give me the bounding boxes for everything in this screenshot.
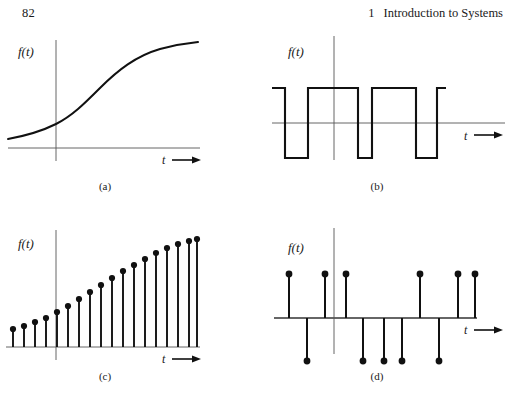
- x-axis-label: t: [162, 153, 166, 167]
- figure-panel-c: f(t) t (c): [0, 212, 230, 367]
- stem-series: [10, 236, 200, 347]
- panel-d-plot: f(t) t: [262, 212, 512, 367]
- y-axis-label: f(t): [18, 236, 34, 251]
- y-axis-label: f(t): [18, 44, 34, 59]
- panel-c-plot: f(t) t: [0, 212, 230, 367]
- textbook-page: 82 1Introduction to Systems f(t) t (a): [0, 0, 517, 406]
- analog-waveform-curve: [8, 42, 198, 139]
- y-axis-label: f(t): [288, 240, 304, 255]
- figure-panel-b: f(t) t (b): [262, 28, 512, 183]
- panel-a-plot: f(t) t: [0, 28, 230, 183]
- arrow-right-icon: [474, 326, 503, 333]
- figure-panel-a: f(t) t (a): [0, 28, 230, 183]
- arrow-right-icon: [172, 355, 201, 362]
- panel-b-plot: f(t) t: [262, 28, 512, 183]
- arrow-right-icon: [474, 131, 503, 138]
- arrow-right-icon: [172, 156, 201, 163]
- x-axis-label: t: [464, 323, 468, 337]
- page-number: 82: [22, 6, 35, 21]
- running-head: 82 1Introduction to Systems: [0, 6, 517, 24]
- x-axis-label: t: [464, 129, 468, 143]
- y-axis-label: f(t): [288, 44, 304, 59]
- panel-b-caption: (b): [357, 180, 397, 192]
- figure-panel-d: f(t) t (d): [262, 212, 512, 367]
- chapter-heading: 1Introduction to Systems: [368, 6, 503, 21]
- panel-a-caption: (a): [85, 180, 125, 192]
- chapter-title: Introduction to Systems: [384, 6, 503, 20]
- panel-c-caption: (c): [85, 370, 125, 382]
- panel-d-caption: (d): [357, 370, 397, 382]
- chapter-number: 1: [368, 6, 374, 20]
- x-axis-label: t: [162, 352, 166, 366]
